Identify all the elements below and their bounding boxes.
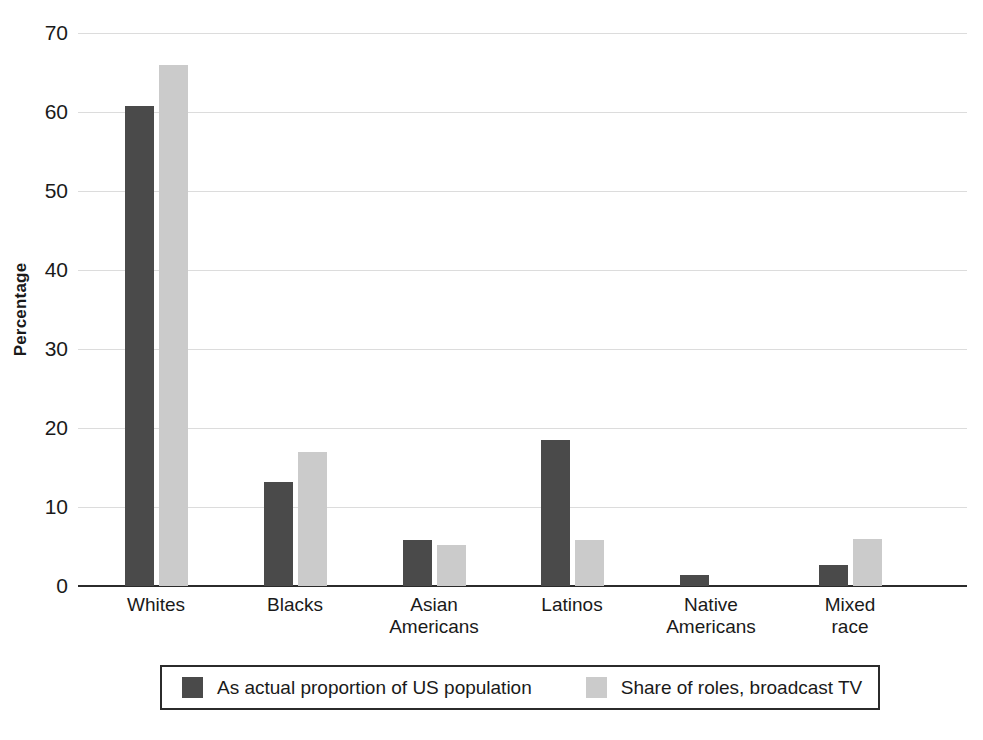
category-label-whites: Whites [76,594,236,616]
bar-asian-americans-series-1 [437,545,466,586]
bar-blacks-series-0 [264,482,293,586]
category-label-mixed-race: Mixedrace [770,594,930,638]
category-label-line: Americans [354,616,514,638]
category-label-line: Asian [354,594,514,616]
legend-entry-1[interactable]: Share of roles, broadcast TV [586,667,863,708]
category-label-latinos: Latinos [492,594,652,616]
bar-asian-americans-series-0 [403,540,432,586]
bar-chart: Percentage 010203040506070 WhitesBlacksA… [0,0,983,740]
bar-whites-series-1 [159,65,188,586]
legend-entry-0[interactable]: As actual proportion of US population [182,667,532,708]
category-label-line: Americans [631,616,791,638]
category-label-asian-americans: AsianAmericans [354,594,514,638]
category-label-line: Native [631,594,791,616]
category-label-line: Blacks [215,594,375,616]
bar-native-americans-series-0 [680,575,709,586]
legend-label-0: As actual proportion of US population [217,677,532,699]
bar-mixed-race-series-0 [819,565,848,586]
legend-label-1: Share of roles, broadcast TV [621,677,863,699]
bar-blacks-series-1 [298,452,327,586]
bar-mixed-race-series-1 [853,539,882,586]
legend-swatch-icon-0 [182,677,203,698]
category-label-line: Whites [76,594,236,616]
bar-whites-series-0 [125,106,154,586]
bar-latinos-series-0 [541,440,570,586]
bars-layer [0,0,983,586]
category-label-line: Mixed [770,594,930,616]
legend-swatch-icon-1 [586,677,607,698]
category-label-line: Latinos [492,594,652,616]
category-label-blacks: Blacks [215,594,375,616]
bar-latinos-series-1 [575,540,604,586]
category-label-line: race [770,616,930,638]
plot-area: 010203040506070 WhitesBlacksAsianAmerica… [0,0,983,620]
chart-legend: As actual proportion of US population Sh… [160,665,880,710]
category-label-native-americans: NativeAmericans [631,594,791,638]
